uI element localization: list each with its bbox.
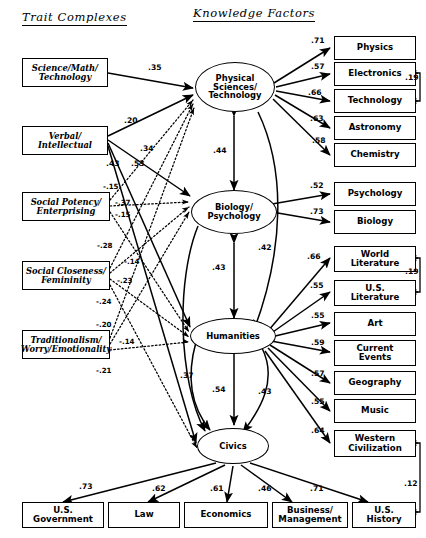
knowledge-box-physics[interactable]: Physics [334,36,416,60]
knowledge-box-psychology[interactable]: Psychology [334,182,416,206]
coef-potency-to-physical: -.15 [103,182,119,191]
knowledge-box-technology[interactable]: Technology [334,89,416,113]
coef-traditionalism-to-physical: -.20 [96,320,112,329]
trait-label-line2: Femininity [26,276,106,285]
knowledge-label-line1: Music [361,406,389,415]
knowledge-box-us-literature[interactable]: U.S. Literature [334,280,416,306]
coef-economics: .61 [210,484,223,493]
knowledge-label-line1: Astronomy [349,123,402,132]
trait-label-line2: Technology [32,73,98,82]
coef-residual-electronics-technology: .19 [405,73,418,82]
factor-label-line3: Technology [208,91,261,100]
knowledge-label-line2: Government [33,515,93,524]
trait-label-line2: Intellectual [38,141,92,150]
knowledge-box-current-events[interactable]: Current Events [334,340,416,366]
factor-oval-biology-psychology[interactable]: Biology/ Psychology [191,190,277,234]
coef-closeness-to-civics: -.24 [96,297,112,306]
knowledge-label-line1: Geography [349,378,402,387]
coef-current-events: .59 [311,338,324,347]
knowledge-box-biology[interactable]: Biology [334,210,416,234]
coef-electronics: .57 [311,62,324,71]
coef-geography: .57 [311,369,324,378]
knowledge-label-line2: History [366,515,401,524]
knowledge-label-line2: Literature [351,259,400,268]
coef-psychology: .52 [310,181,323,190]
coef-physics: .71 [311,36,324,45]
knowledge-box-western-civilization[interactable]: Western Civilization [334,430,416,457]
coef-physical-humanities: .42 [258,243,271,252]
coef-us-history: .71 [310,484,323,493]
coef-closeness-to-physical: -.28 [97,241,113,250]
knowledge-label-line1: Psychology [348,189,403,198]
factor-oval-humanities[interactable]: Humanities [190,318,276,354]
coef-western-civilization: .64 [311,426,324,435]
knowledge-box-music[interactable]: Music [334,399,416,423]
trait-box-social-closeness-femininity[interactable]: Social Closeness/ Femininity [22,261,110,290]
factor-oval-physical-sciences-technology[interactable]: Physical Sciences/ Technology [195,62,275,112]
coef-closeness-to-humanities: -.23 [117,276,133,285]
knowledge-label-line2: Civilization [348,444,402,453]
coef-chemistry: .58 [312,136,325,145]
knowledge-label-line1: Physics [357,43,393,52]
knowledge-box-business-management[interactable]: Business/ Management [272,502,348,528]
knowledge-label-line2: Literature [351,293,400,302]
coef-traditionalism-to-humanities: -.21 [96,366,112,375]
knowledge-box-law[interactable]: Law [108,502,180,528]
coef-potency-to-humanities: -.15 [115,210,131,219]
trait-box-social-potency-enterprising[interactable]: Social Potency/ Enterprising [22,192,110,221]
factor-label-line1: Humanities [206,332,260,341]
coef-art: .55 [311,311,324,320]
knowledge-label-line2: Events [357,353,394,362]
coef-business-management: .46 [258,484,271,493]
coef-residual-western-us-history: .12 [404,479,417,488]
knowledge-box-us-history[interactable]: U.S. History [352,502,416,528]
trait-label-line2: Enterprising [31,207,102,216]
coef-us-literature: .55 [310,281,323,290]
coef-biology-ind: .73 [310,207,323,216]
knowledge-label-line1: Electronics [348,69,401,78]
knowledge-label-line1: Chemistry [350,150,399,159]
knowledge-box-world-literature[interactable]: World Literature [334,246,416,272]
coef-world-literature: .66 [307,252,320,261]
knowledge-box-us-government[interactable]: U.S. Government [22,502,104,528]
factor-label-line1: Civics [219,442,246,451]
knowledge-label-line1: Law [134,510,153,519]
coef-music: .55 [311,397,324,406]
factor-label-line2: Psychology [207,212,260,221]
knowledge-label-line1: Economics [200,510,251,519]
trait-box-traditionalism-worry-emotionality[interactable]: Traditionalism/ Worry/Emotionality [22,330,110,359]
factor-oval-civics[interactable]: Civics [197,428,269,464]
coef-humanities-civics-37: .37 [180,371,193,380]
coef-us-government: .73 [79,482,92,491]
knowledge-box-astronomy[interactable]: Astronomy [334,116,416,140]
coef-potency-to-biology: -.37 [115,198,131,207]
trait-box-science-math-technology[interactable]: Science/Math/ Technology [22,58,108,87]
coef-science-to-physical: .35 [148,63,161,72]
sem-diagram: Trait Complexes Knowledge Factors [0,0,426,538]
knowledge-label-line1: Art [368,319,383,328]
coef-traditionalism-to-biology: -.14 [119,337,135,346]
knowledge-label-line1: Technology [348,96,402,105]
coef-technology: .66 [308,88,321,97]
coef-verbal-to-biology: .34 [140,144,153,153]
knowledge-box-economics[interactable]: Economics [184,502,268,528]
coef-humanities-civics-43: .43 [258,387,271,396]
trait-box-verbal-intellectual[interactable]: Verbal/ Intellectual [22,126,108,155]
coef-closeness-to-biology: -.14 [124,257,140,266]
knowledge-box-art[interactable]: Art [334,312,416,336]
coef-law: .62 [152,484,165,493]
coef-astronomy: .63 [310,114,323,123]
coef-physical-biology: .44 [213,146,226,155]
knowledge-box-geography[interactable]: Geography [334,371,416,395]
coef-biology-civics: .43 [212,263,225,272]
trait-label-line2: Worry/Emotionality [21,345,111,354]
coef-verbal-to-humanities: .53 [131,159,144,168]
coef-verbal-to-physical: .20 [124,116,137,125]
knowledge-box-electronics[interactable]: Electronics [334,62,416,86]
knowledge-box-chemistry[interactable]: Chemistry [334,143,416,167]
coef-residual-world-us-literature: .19 [405,267,418,276]
coef-humanities-civics-54: .54 [212,385,225,394]
coef-verbal-to-civics: .43 [106,159,119,168]
knowledge-label-line1: Biology [357,217,393,226]
knowledge-label-line2: Management [278,515,341,524]
